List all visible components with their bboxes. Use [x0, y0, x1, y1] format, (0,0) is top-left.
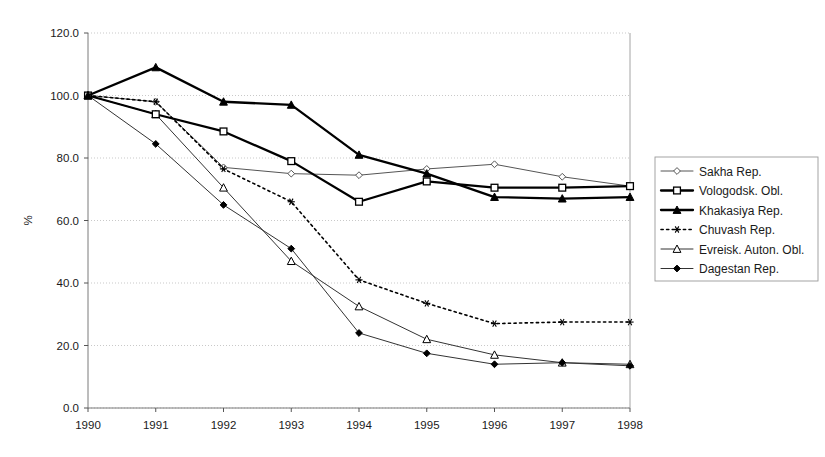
- marker-filled-diamond: [627, 362, 634, 369]
- x-tick-label: 1993: [278, 419, 304, 431]
- x-tick-label: 1990: [75, 419, 101, 431]
- marker-asterisk: [491, 321, 498, 327]
- series-sakha-rep: [85, 92, 634, 189]
- legend-item-label: Evreisk. Auton. Obl.: [699, 243, 804, 257]
- y-axis-title: %: [22, 215, 34, 225]
- marker-open-square: [674, 187, 681, 194]
- legend: Sakha Rep.Vologodsk. Obl.Khakasiya Rep.C…: [655, 157, 818, 281]
- y-axis-ticks: 0.020.040.060.080.0100.0120.0: [50, 27, 88, 414]
- x-tick-label: 1997: [549, 419, 575, 431]
- x-axis-ticks: 199019911992199319941995199619971998: [75, 408, 643, 431]
- marker-open-diamond: [288, 170, 295, 177]
- series-chuvash-rep: [84, 92, 633, 326]
- marker-open-diamond: [559, 173, 566, 180]
- x-tick-label: 1998: [617, 419, 643, 431]
- marker-open-square: [356, 198, 363, 205]
- legend-item-label: Sakha Rep.: [699, 165, 762, 179]
- series-layer: [84, 63, 634, 369]
- marker-asterisk: [423, 300, 430, 306]
- y-tick-label: 20.0: [57, 340, 79, 352]
- marker-filled-diamond: [423, 350, 430, 357]
- y-tick-label: 80.0: [57, 152, 79, 164]
- series-evreisk-auton-obl: [84, 92, 634, 368]
- marker-open-square: [152, 111, 159, 118]
- marker-open-diamond: [491, 161, 498, 168]
- legend-item-label: Vologodsk. Obl.: [699, 184, 783, 198]
- legend-item-label: Dagestan Rep.: [699, 262, 779, 276]
- x-tick-label: 1992: [211, 419, 237, 431]
- series-line: [88, 96, 630, 365]
- line-chart: 0.020.040.060.080.0100.0120.019901991199…: [0, 0, 825, 457]
- chart-canvas: 0.020.040.060.080.0100.0120.019901991199…: [0, 0, 825, 457]
- x-tick-label: 1996: [482, 419, 508, 431]
- series-khakasiya-rep: [84, 63, 634, 202]
- gridlines: [88, 33, 630, 408]
- y-tick-label: 100.0: [50, 90, 79, 102]
- x-tick-label: 1994: [346, 419, 372, 431]
- marker-open-square: [491, 184, 498, 191]
- x-tick-label: 1991: [143, 419, 169, 431]
- marker-filled-triangle: [152, 63, 160, 70]
- marker-open-square: [220, 128, 227, 135]
- marker-open-triangle: [355, 302, 363, 309]
- legend-item-label: Khakasiya Rep.: [699, 204, 783, 218]
- marker-asterisk: [559, 319, 566, 325]
- series-line: [88, 96, 630, 324]
- marker-open-square: [288, 158, 295, 165]
- x-tick-label: 1995: [414, 419, 440, 431]
- y-tick-label: 40.0: [57, 277, 79, 289]
- y-tick-label: 60.0: [57, 215, 79, 227]
- marker-open-square: [559, 184, 566, 191]
- series-line: [88, 96, 630, 202]
- series-vologodsk-obl: [85, 92, 634, 205]
- marker-open-square: [423, 178, 430, 185]
- series-line: [88, 96, 630, 366]
- y-tick-label: 0.0: [63, 402, 79, 414]
- marker-open-diamond: [356, 172, 363, 179]
- y-tick-label: 120.0: [50, 27, 79, 39]
- marker-open-triangle: [423, 335, 431, 342]
- marker-filled-diamond: [491, 361, 498, 368]
- marker-open-square: [627, 183, 634, 190]
- series-dagestan-rep: [85, 92, 634, 369]
- legend-item-label: Chuvash Rep.: [699, 223, 775, 237]
